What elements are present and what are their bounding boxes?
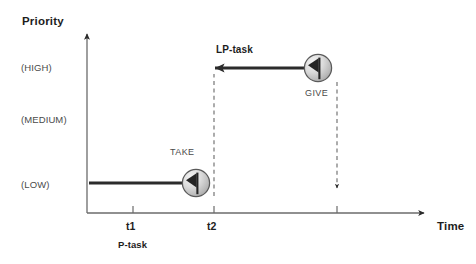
y-axis-title: Priority bbox=[22, 16, 64, 28]
take-event-icon[interactable] bbox=[182, 169, 209, 196]
x-axis-title: Time bbox=[437, 221, 464, 233]
diagram-canvas bbox=[0, 0, 476, 264]
give-event-icon[interactable] bbox=[304, 54, 331, 81]
lp-task-label: LP-task bbox=[216, 45, 253, 55]
x-axis bbox=[87, 206, 424, 213]
y-tick-label-high: (HIGH) bbox=[21, 63, 52, 73]
y-tick-label-low: (LOW) bbox=[21, 180, 49, 190]
y-tick-label-medium: (MEDIUM) bbox=[21, 115, 67, 125]
x-tick-label-t2: t2 bbox=[207, 221, 216, 232]
x-tick-label-t1: t1 bbox=[126, 221, 135, 232]
p-task-label: P-task bbox=[118, 240, 147, 250]
priority-timeline-diagram: Priority (HIGH) (MEDIUM) (LOW) t1 t2 Tim… bbox=[0, 0, 476, 264]
give-event-label: GIVE bbox=[305, 89, 328, 98]
take-event-label: TAKE bbox=[170, 148, 194, 157]
